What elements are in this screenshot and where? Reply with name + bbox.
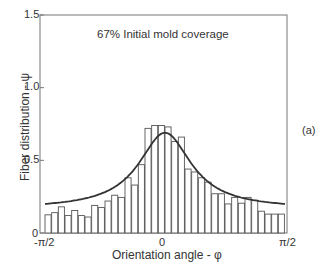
chart-title: 67% Initial mold coverage — [97, 28, 229, 40]
histogram-bar — [225, 204, 231, 233]
x-tick-neg-pi-half: -π/2 — [34, 236, 54, 248]
x-tick-zero: 0 — [159, 236, 165, 248]
histogram-bar — [265, 214, 271, 233]
histogram-bar — [245, 197, 251, 233]
histogram-bar — [132, 185, 138, 233]
y-tick-1.0: 1.0 — [24, 80, 39, 92]
y-tick-1.5: 1.5 — [24, 8, 39, 20]
histogram-bar — [138, 165, 144, 233]
histogram-bar — [232, 197, 238, 233]
histogram-bar — [272, 214, 278, 233]
histogram-bar — [172, 141, 178, 233]
histogram-bar — [125, 178, 131, 233]
histogram-bar — [145, 128, 151, 233]
histogram-bar — [85, 217, 91, 233]
histogram-bar — [92, 205, 98, 233]
y-axis-label: Fiber distribution - ψ — [18, 52, 32, 202]
chart: 67% Initial mold coverage (a) Orientatio… — [0, 0, 327, 267]
histogram-bar — [252, 200, 258, 233]
histogram-bar — [78, 216, 84, 233]
histogram-bar — [58, 207, 64, 233]
histogram-bar — [98, 208, 104, 233]
histogram-bar — [238, 203, 244, 233]
histogram-bar — [52, 213, 58, 233]
histogram-bar — [198, 178, 204, 233]
histogram-bar — [212, 194, 218, 233]
histogram-bar — [158, 125, 164, 233]
histogram-bar — [65, 216, 71, 233]
histogram-bar — [218, 194, 224, 233]
plot-area — [0, 0, 327, 267]
histogram-bar — [45, 215, 51, 233]
x-axis-label: Orientation angle - φ — [112, 248, 222, 262]
histogram-bar — [112, 195, 118, 233]
histogram-bar — [205, 182, 211, 233]
y-tick-0.5: 0.5 — [24, 153, 39, 165]
histogram-bar — [185, 169, 191, 233]
histogram-bar — [258, 211, 264, 233]
x-tick-pi-half: π/2 — [279, 236, 296, 248]
histogram-bar — [118, 197, 124, 233]
histogram-bar — [72, 210, 78, 233]
panel-label: (a) — [302, 124, 315, 136]
histogram-bar — [192, 172, 198, 233]
histogram-bar — [278, 214, 284, 233]
histogram-bar — [105, 201, 111, 233]
histogram-bar — [165, 127, 171, 233]
